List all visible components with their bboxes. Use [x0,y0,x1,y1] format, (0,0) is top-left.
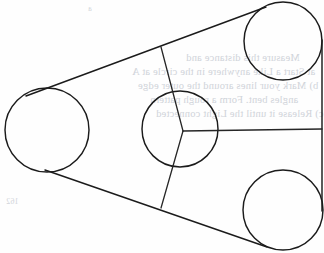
tangent-upper-left [26,7,266,96]
figure-root: Measure this distance and at Start a Lik… [0,0,324,253]
top-right-pulley [244,2,322,80]
center-hub-circle [142,91,218,167]
bottom-right-pulley [243,170,323,250]
spoke-lower [161,131,183,208]
spoke-upper [161,47,183,131]
left-pulley [5,88,89,172]
spoke-right [183,129,322,131]
belt-pulley-diagram [0,0,324,253]
tangent-lower-left [45,170,267,247]
